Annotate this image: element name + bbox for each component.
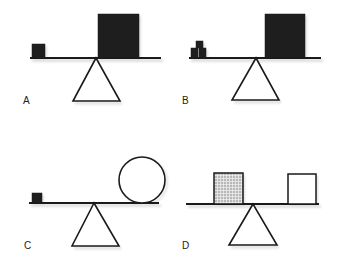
fulcrum-triangle: [229, 204, 277, 245]
dark-block: [32, 44, 45, 58]
dark-block: [199, 48, 206, 58]
dark-block: [191, 48, 198, 58]
white-block: [288, 174, 316, 204]
panel-label-a: A: [23, 96, 30, 106]
balance-scales-figure: [0, 0, 338, 255]
dark-block: [265, 14, 305, 58]
panel-label-c: C: [24, 241, 31, 251]
panel-label-d: D: [182, 241, 189, 251]
dark-block: [196, 41, 203, 48]
hollow-circle: [119, 157, 165, 203]
hatched-block: [214, 173, 243, 204]
balance-panel-b: [189, 14, 323, 102]
balance-panel-c: [29, 157, 167, 248]
fulcrum-triangle: [232, 58, 279, 100]
panel-label-b: B: [182, 96, 189, 106]
balance-panel-a: [30, 14, 163, 103]
dark-block: [98, 14, 139, 58]
fulcrum-triangle: [73, 58, 120, 101]
balance-panel-d: [186, 173, 321, 247]
dark-block: [32, 193, 42, 203]
fulcrum-triangle: [72, 203, 119, 246]
